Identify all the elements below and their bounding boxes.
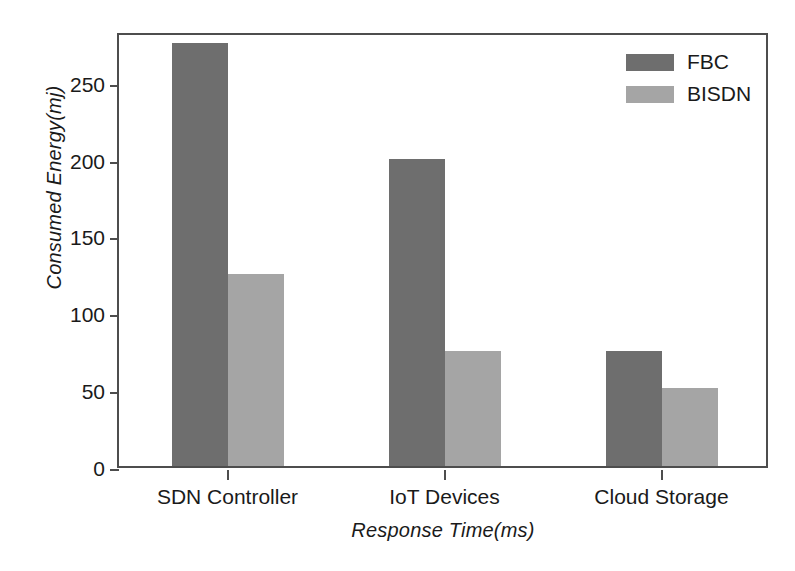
y-tick-mark [110, 238, 119, 240]
legend-swatch-fbc [626, 54, 674, 71]
y-tick-label: 50 [35, 380, 105, 404]
x-tick-label: SDN Controller [108, 485, 348, 509]
legend-swatch-bisdn [626, 86, 674, 103]
chart-legend: FBC BISDN [618, 40, 761, 116]
y-tick-mark [110, 469, 119, 471]
y-tick-label: 150 [35, 226, 105, 250]
y-tick-mark [110, 315, 119, 317]
y-tick-label: 250 [35, 73, 105, 97]
bar-bisdn-iot-devices[interactable] [445, 351, 501, 466]
bar-fbc-sdn-controller[interactable] [172, 43, 228, 466]
y-tick-label: 100 [35, 303, 105, 327]
legend-label-fbc: FBC [687, 50, 729, 74]
bar-fbc-cloud-storage[interactable] [606, 351, 662, 466]
y-tick-mark [110, 85, 119, 87]
x-tick-label: IoT Devices [325, 485, 565, 509]
bar-bisdn-sdn-controller[interactable] [228, 274, 284, 466]
legend-label-bisdn: BISDN [687, 82, 751, 106]
y-tick-label: 200 [35, 150, 105, 174]
y-tick-label: 0 [35, 457, 105, 481]
y-tick-mark [110, 162, 119, 164]
x-tick-label: Cloud Storage [542, 485, 782, 509]
bar-bisdn-cloud-storage[interactable] [662, 388, 718, 466]
legend-item-bisdn[interactable]: BISDN [626, 78, 751, 110]
x-tick-mark [661, 470, 663, 480]
chart-figure: Consumed Energy(mj) 050100150200250SDN C… [0, 0, 795, 571]
x-tick-mark [444, 470, 446, 480]
y-tick-mark [110, 392, 119, 394]
bar-fbc-iot-devices[interactable] [389, 159, 445, 466]
x-tick-mark [227, 470, 229, 480]
legend-item-fbc[interactable]: FBC [626, 46, 751, 78]
x-axis-title: Response Time(ms) [117, 519, 769, 542]
